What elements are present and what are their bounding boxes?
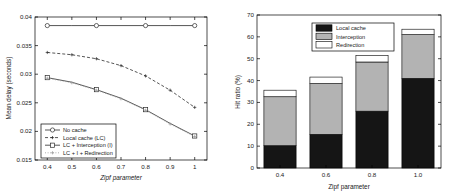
right-x-tick-labels: 0.40.60.81.0 <box>276 171 423 178</box>
legend-label-0[interactable]: No cache <box>63 127 87 133</box>
y-tick-label: 0.04 <box>20 13 33 20</box>
bar-segment-0.8-1 <box>356 62 388 111</box>
y-tick-label: 10 <box>247 142 254 149</box>
legend-swatch-1 <box>316 33 332 39</box>
x-tick-label: 0.6 <box>322 171 331 178</box>
legend-label-2[interactable]: LC + Interception (I) <box>63 142 113 148</box>
bar-segment-0.8-2 <box>356 55 388 62</box>
y-tick-label: 40 <box>247 77 254 84</box>
left-series-group <box>45 23 197 138</box>
legend-label-0[interactable]: Local cache <box>336 25 366 31</box>
left-y-axis-title: Mean delay (seconds) <box>5 57 13 120</box>
y-tick-label: 0.025 <box>17 99 33 106</box>
series-1-marker <box>144 74 147 77</box>
bar-segment-1.0-0 <box>402 78 434 168</box>
right-x-axis-title: Zipf parameter <box>328 183 370 191</box>
series-1-marker <box>95 57 98 60</box>
series-1-marker <box>70 53 73 56</box>
y-tick-label: 70 <box>247 11 254 18</box>
y-tick-label: 0 <box>251 164 255 171</box>
right-plot-svg: 0.40.60.81.0 010203040506070 Zipf parame… <box>232 0 464 195</box>
y-tick-label: 0.03 <box>20 70 33 77</box>
legend-label-3[interactable]: LC + I + Redirection <box>63 150 113 156</box>
left-x-tick-labels: 0.40.50.60.70.80.91 <box>43 163 197 170</box>
y-tick-label: 0.02 <box>20 127 33 134</box>
y-tick-label: 30 <box>247 98 254 105</box>
bar-segment-1.0-2 <box>402 29 434 34</box>
left-plot-svg: 0.40.50.60.70.80.91 0.0150.020.0250.030.… <box>0 0 232 195</box>
legend-label-1[interactable]: Interception <box>336 34 365 40</box>
series-0-marker <box>94 23 98 27</box>
x-tick-label: 0.8 <box>141 163 150 170</box>
bar-segment-0.4-1 <box>264 97 296 146</box>
x-tick-label: 1 <box>193 163 197 170</box>
figure-container: 0.40.50.60.70.80.91 0.0150.020.0250.030.… <box>0 0 464 195</box>
series-1-marker <box>119 64 122 67</box>
bar-segment-0.6-0 <box>310 134 342 168</box>
x-tick-label: 0.4 <box>43 163 52 170</box>
legend-label-1[interactable]: Local cache (LC) <box>63 135 105 141</box>
x-tick-label: 0.8 <box>368 171 377 178</box>
legend-marker-2 <box>50 143 54 147</box>
right-y-axis-title: Hit ratio (%) <box>234 75 242 109</box>
y-tick-label: 60 <box>247 33 254 40</box>
series-0-marker <box>143 23 147 27</box>
series-0-marker <box>193 23 197 27</box>
x-tick-label: 1.0 <box>414 171 423 178</box>
x-tick-label: 0.4 <box>276 171 285 178</box>
legend-label-2[interactable]: Redirection <box>336 42 364 48</box>
right-y-tick-labels: 010203040506070 <box>247 11 254 171</box>
left-x-axis-title: Zipf parameter <box>99 174 142 182</box>
legend-swatch-2 <box>316 42 332 48</box>
bar-segment-0.4-0 <box>264 146 296 168</box>
left-y-tick-labels: 0.0150.020.0250.030.0350.04 <box>17 13 33 163</box>
x-tick-label: 0.5 <box>68 163 77 170</box>
x-tick-label: 0.7 <box>117 163 126 170</box>
series-0-marker <box>45 23 49 27</box>
bar-segment-0.6-1 <box>310 84 342 135</box>
legend-marker-0 <box>50 128 54 132</box>
y-tick-label: 20 <box>247 120 254 127</box>
series-1-marker <box>193 106 196 109</box>
bar-segment-0.6-2 <box>310 77 342 84</box>
x-tick-label: 0.6 <box>92 163 101 170</box>
bar-segment-0.4-2 <box>264 90 296 97</box>
legend-swatch-0 <box>316 25 332 31</box>
y-tick-label: 0.035 <box>17 42 33 49</box>
y-tick-label: 0.015 <box>17 156 33 163</box>
mean-delay-line-chart: 0.40.50.60.70.80.91 0.0150.020.0250.030.… <box>0 0 232 195</box>
bar-segment-1.0-1 <box>402 35 434 79</box>
y-tick-label: 50 <box>247 55 254 62</box>
right-legend[interactable]: Local cacheInterceptionRedirection <box>312 23 394 51</box>
x-tick-label: 0.9 <box>166 163 175 170</box>
series-1-marker <box>46 51 49 54</box>
hit-ratio-bar-chart: 0.40.60.81.0 010203040506070 Zipf parame… <box>232 0 464 195</box>
bar-segment-0.8-0 <box>356 111 388 168</box>
left-legend[interactable]: No cacheLocal cache (LC)LC + Interceptio… <box>41 124 116 158</box>
